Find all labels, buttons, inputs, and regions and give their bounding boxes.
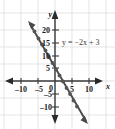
- xtick-label-neg10: –10: [14, 85, 27, 94]
- y-axis-name: y: [47, 10, 52, 19]
- xtick-label-5: 5: [70, 85, 74, 94]
- data-point: [33, 30, 37, 34]
- data-point: [58, 74, 62, 78]
- coordinate-plane-svg: 20 15 10 5 –5 –10 –10 –5 0 5 10 y x y = …: [0, 0, 115, 129]
- graph-figure: 20 15 10 5 –5 –10 –10 –5 0 5 10 y x y = …: [0, 0, 115, 129]
- xtick-label-10: 10: [85, 85, 93, 94]
- data-point: [61, 80, 65, 84]
- ytick-label-15: 15: [42, 39, 50, 48]
- data-point: [51, 61, 55, 65]
- ytick-label-neg10: –10: [39, 103, 52, 112]
- data-point: [65, 86, 69, 90]
- x-axis-name: x: [105, 82, 110, 91]
- ytick-label-5: 5: [46, 64, 50, 73]
- equation-label: y = −2x + 3: [62, 38, 100, 47]
- ytick-label-20: 20: [42, 26, 50, 35]
- data-point: [72, 99, 76, 103]
- origin-label: 0: [49, 84, 53, 93]
- data-point: [54, 68, 58, 72]
- xtick-label-neg5: –5: [34, 85, 43, 94]
- ytick-label-10: 10: [42, 52, 50, 61]
- data-point: [37, 37, 41, 41]
- data-point: [75, 105, 79, 109]
- figure-background: [0, 0, 115, 129]
